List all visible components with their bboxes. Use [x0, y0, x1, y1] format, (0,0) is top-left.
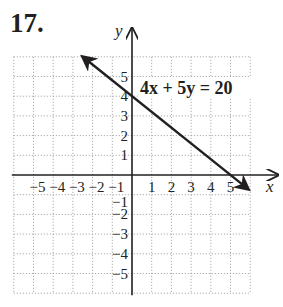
axes	[12, 28, 278, 295]
x-tick-label: −2	[89, 179, 105, 195]
x-tick-label: 1	[148, 179, 156, 195]
equation-label: 4x + 5y = 20	[138, 77, 256, 98]
x-tick-label: 5	[227, 179, 235, 195]
x-tick-label: −3	[69, 179, 85, 195]
y-tick-label: 1	[121, 147, 129, 163]
y-tick-label: −4	[112, 246, 128, 262]
x-tick-label: 3	[187, 179, 195, 195]
x-tick-label: 4	[207, 179, 215, 195]
x-tick-label: 2	[168, 179, 176, 195]
y-axis-label: y	[113, 21, 123, 40]
y-tick-label: −1	[112, 194, 128, 210]
x-tick-label: −1	[108, 179, 124, 195]
x-axis-label: x	[265, 177, 274, 196]
y-tick-label: −5	[112, 266, 128, 282]
y-tick-label: 5	[121, 69, 129, 85]
y-tick-label: 3	[121, 108, 129, 124]
x-tick-label: −5	[30, 179, 46, 195]
x-tick-label: −4	[49, 179, 65, 195]
y-tick-label: −3	[112, 226, 128, 242]
y-tick-label: 2	[121, 128, 129, 144]
equation-line	[83, 57, 248, 189]
coordinate-plane: −5−4−3−2−112345−5−4−3−2−112345 x y 4x + …	[0, 0, 283, 307]
line-series	[83, 57, 248, 189]
equation-text: 4x + 5y = 20	[140, 78, 233, 98]
